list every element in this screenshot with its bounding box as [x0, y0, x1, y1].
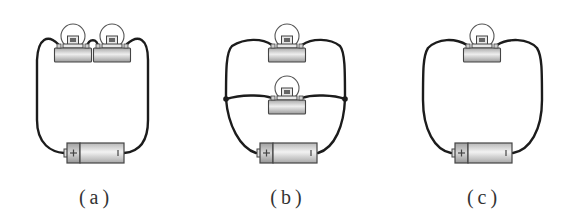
panel-b-parallel-circuit	[223, 24, 348, 163]
bulb-icon	[55, 24, 92, 62]
panel-c-single-circuit	[423, 24, 542, 163]
wire-mid-left	[226, 95, 272, 99]
panel-a-label: (a)	[79, 186, 113, 209]
wire-left	[423, 40, 467, 153]
wire-right	[497, 40, 542, 153]
panel-a-series-circuit	[37, 24, 148, 163]
panel-c-label: (c)	[467, 186, 501, 209]
bulb-icon	[269, 76, 306, 114]
junction-dot	[223, 96, 229, 102]
wire-bottom-right	[318, 99, 345, 153]
wire-bottom-left	[226, 99, 256, 153]
wire-top-left	[226, 40, 272, 99]
battery-icon	[452, 143, 512, 163]
bulb-icon	[269, 24, 306, 62]
wire-top-right	[302, 40, 345, 99]
bulb-icon	[464, 24, 501, 62]
battery-icon	[257, 143, 317, 163]
wire-mid-right	[302, 95, 345, 99]
battery-icon	[64, 143, 124, 163]
circuit-figure: (a) (b) (c)	[0, 0, 570, 220]
panel-b-label: (b)	[270, 186, 305, 209]
junction-dot	[342, 96, 348, 102]
bulb-icon	[94, 24, 131, 62]
